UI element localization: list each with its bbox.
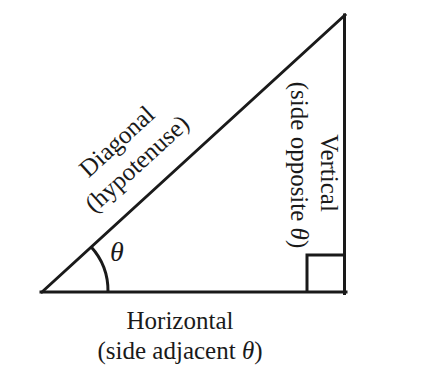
horizontal-label-line2: (side adjacent θ) [0,336,360,365]
horizontal-side-label: Horizontal (side adjacent θ) [0,306,360,365]
horizontal-label-theta: θ [242,337,254,364]
triangle-figure: θ Diagonal (hypotenuse) Vertical (side o… [0,0,431,382]
horizontal-label-prefix: (side adjacent [98,337,242,364]
vertical-label-suffix: ) [286,240,313,248]
vertical-side-label: Vertical (side opposite θ) [285,55,344,275]
horizontal-label-suffix: ) [254,337,262,364]
angle-arc [91,247,108,293]
vertical-label-prefix: (side opposite [286,82,313,228]
angle-theta-label: θ [110,236,124,268]
vertical-label-line2: (side opposite θ) [285,55,314,275]
vertical-label-line1: Vertical [315,71,344,275]
horizontal-label-line1: Horizontal [0,306,360,335]
vertical-label-theta: θ [286,228,313,240]
